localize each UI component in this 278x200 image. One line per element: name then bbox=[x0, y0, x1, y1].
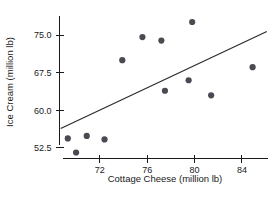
y-tick-label: 60.0 bbox=[34, 106, 52, 116]
data-point bbox=[139, 34, 145, 40]
x-axis-ticks: 72768084 bbox=[95, 155, 247, 175]
y-tick-label: 52.5 bbox=[34, 143, 52, 153]
x-axis-title: Cottage Cheese (million lb) bbox=[108, 173, 223, 184]
data-point bbox=[119, 57, 125, 63]
trend-line bbox=[61, 32, 267, 129]
y-axis-title: Ice Cream (million lb) bbox=[4, 37, 15, 127]
regression-line bbox=[61, 32, 267, 129]
data-point bbox=[158, 37, 164, 43]
data-point bbox=[249, 64, 255, 70]
x-tick-label: 72 bbox=[95, 165, 105, 175]
y-axis: 52.560.067.575.0 bbox=[34, 16, 64, 153]
data-point bbox=[208, 92, 214, 98]
x-axis: 72768084 bbox=[63, 155, 268, 175]
data-point bbox=[84, 133, 90, 139]
data-point bbox=[101, 136, 107, 142]
x-tick-label: 84 bbox=[237, 165, 247, 175]
data-points bbox=[65, 19, 256, 156]
data-point bbox=[189, 19, 195, 25]
y-tick-label: 75.0 bbox=[34, 30, 52, 40]
data-point bbox=[73, 149, 79, 155]
scatter-chart: 52.560.067.575.0 72768084 Cottage Cheese… bbox=[0, 0, 278, 200]
y-tick-label: 67.5 bbox=[34, 68, 52, 78]
data-point bbox=[162, 88, 168, 94]
data-point bbox=[186, 77, 192, 83]
chart-canvas: 52.560.067.575.0 72768084 Cottage Cheese… bbox=[0, 0, 278, 200]
data-point bbox=[65, 135, 71, 141]
